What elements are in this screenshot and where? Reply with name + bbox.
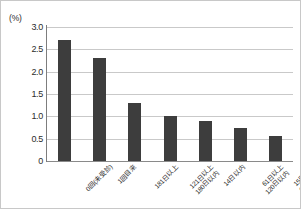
bar [164, 116, 177, 161]
bar [128, 103, 141, 161]
gridline [47, 94, 293, 95]
gridline [47, 72, 293, 73]
x-axis-baseline [47, 161, 293, 162]
y-axis-tick-label: 0 [3, 156, 43, 166]
gridline [47, 27, 293, 28]
y-axis-tick-label: 3.0 [3, 22, 43, 32]
y-axis-tick-label: 2.5 [3, 44, 43, 54]
y-axis-tick-labels: 3.02.52.01.51.00.50 [1, 27, 43, 161]
x-axis-tick-label: 61日以上 120日以内 [258, 163, 291, 196]
plot-area [47, 27, 293, 161]
bar [234, 128, 247, 162]
x-axis-tick-label: 121日以上 180日以内 [188, 163, 221, 196]
x-axis-tick-label: 1回目来 [116, 163, 138, 185]
gridline [47, 49, 293, 50]
y-axis-tick-label: 1.0 [3, 111, 43, 121]
x-axis-tick-label: 181日以上 [153, 163, 180, 190]
x-axis-category-labels: 0回(未受診)1回目来181日以上121日以上 180日以内14日以内61日以上… [47, 163, 293, 209]
y-axis-tick-label: 2.0 [3, 67, 43, 77]
x-axis-tick-label: 15日以上 60日以内 [292, 163, 301, 193]
y-axis-tick-label: 0.5 [3, 134, 43, 144]
x-axis-tick-label: 14日以内 [222, 163, 247, 188]
bar [93, 58, 106, 161]
bar-chart-figure: (%) 3.02.52.01.51.00.50 0回(未受診)1回目来181日以… [0, 0, 301, 209]
bar [58, 40, 71, 161]
bar [199, 121, 212, 161]
x-axis-tick-label: 0回(未受診) [84, 163, 114, 193]
y-axis-tick-label: 1.5 [3, 89, 43, 99]
bar [269, 136, 282, 161]
